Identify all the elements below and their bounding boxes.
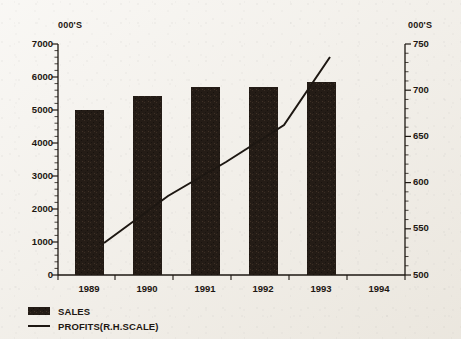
sales-and-profits-chart: 000'S 7000 6000 5000 4000 3000 2000 1000… xyxy=(0,0,461,339)
right-axis-major-ticks xyxy=(405,44,411,275)
left-axis-tick-6000: 6000 xyxy=(32,71,53,82)
legend-swatch-sales xyxy=(28,307,50,315)
legend-label-profits: PROFITS(R.H.SCALE) xyxy=(58,321,159,332)
right-axis-tick-750: 750 xyxy=(413,38,429,49)
left-axis-tick-2000: 2000 xyxy=(32,203,53,214)
legend-label-sales: SALES xyxy=(58,306,90,317)
left-axis-tick-3000: 3000 xyxy=(32,170,53,181)
x-axis-label-1992: 1992 xyxy=(252,283,273,294)
bar-1993 xyxy=(307,82,336,275)
chart-legend: SALES PROFITS(R.H.SCALE) xyxy=(28,306,159,332)
chart-page: 000'S 7000 6000 5000 4000 3000 2000 1000… xyxy=(0,0,461,339)
bar-1989 xyxy=(75,110,104,275)
x-axis-label-1991: 1991 xyxy=(194,283,216,294)
x-axis-label-1989: 1989 xyxy=(78,283,99,294)
left-axis-unit-label: 000'S xyxy=(58,20,82,30)
x-axis-label-1994: 1994 xyxy=(368,283,390,294)
right-axis-tick-550: 550 xyxy=(413,222,429,233)
left-axis-tick-7000: 7000 xyxy=(32,38,53,49)
right-axis-tick-650: 650 xyxy=(413,130,429,141)
right-axis-tick-500: 500 xyxy=(413,269,429,280)
x-axis-label-1990: 1990 xyxy=(136,283,157,294)
right-axis-unit-label: 000'S xyxy=(408,20,432,30)
bar-1992 xyxy=(249,87,278,275)
left-axis-tick-1000: 1000 xyxy=(32,236,53,247)
right-axis-tick-600: 600 xyxy=(413,176,429,187)
left-axis-tick-4000: 4000 xyxy=(32,137,53,148)
x-axis-label-1993: 1993 xyxy=(310,283,331,294)
right-axis-tick-700: 700 xyxy=(413,84,429,95)
bar-1990 xyxy=(133,96,162,275)
bar-series-sales xyxy=(75,82,336,275)
left-axis-tick-5000: 5000 xyxy=(32,104,53,115)
x-axis-category-ticks xyxy=(58,275,405,280)
